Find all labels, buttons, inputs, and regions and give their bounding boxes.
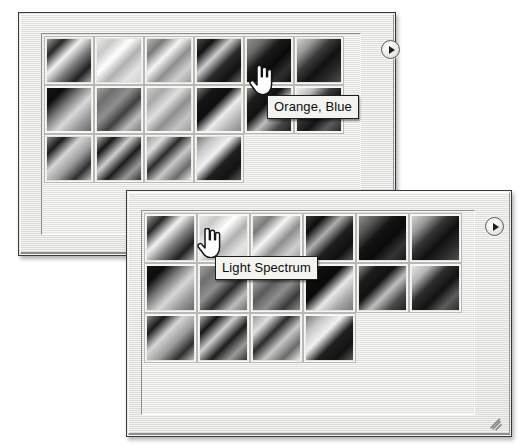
- gradient-swatch-grid: [144, 213, 462, 363]
- gradient-swatch[interactable]: [194, 85, 244, 134]
- gradient-swatch[interactable]: [144, 213, 197, 263]
- gradient-swatch[interactable]: [197, 313, 250, 363]
- gradient-swatch[interactable]: [94, 134, 144, 183]
- gradient-swatch-fill: [359, 216, 406, 260]
- gradient-swatch-fill: [147, 88, 191, 131]
- gradient-picker-menu-button[interactable]: [381, 40, 400, 59]
- gradient-swatch[interactable]: [294, 36, 344, 85]
- gradient-swatch[interactable]: [144, 134, 194, 183]
- pointing-hand-cursor: [196, 228, 222, 258]
- gradient-swatch[interactable]: [194, 134, 244, 183]
- gradient-swatch-fill: [47, 137, 91, 180]
- gradient-swatch-fill: [306, 316, 353, 360]
- pointing-hand-cursor: [248, 65, 274, 95]
- gradient-swatch[interactable]: [144, 36, 194, 85]
- gradient-swatch-fill: [147, 216, 194, 260]
- gradient-swatch[interactable]: [303, 313, 356, 363]
- gradient-swatch[interactable]: [94, 36, 144, 85]
- right-triangle-in-circle-icon: [389, 46, 395, 54]
- gradient-swatch[interactable]: [44, 134, 94, 183]
- gradient-swatch-fill: [97, 39, 141, 82]
- gradient-swatch[interactable]: [250, 313, 303, 363]
- swatch-tooltip: Orange, Blue: [267, 95, 359, 119]
- gradient-swatch-fill: [359, 266, 406, 310]
- gradient-swatch-fill: [147, 137, 191, 180]
- gradient-swatch-fill: [297, 39, 341, 82]
- gradient-swatch[interactable]: [144, 313, 197, 363]
- gradient-swatch-fill: [253, 216, 300, 260]
- gradient-swatch-fill: [97, 88, 141, 131]
- gradient-picker-bottom: Light Spectrum: [126, 190, 512, 437]
- gradient-swatch[interactable]: [409, 213, 462, 263]
- gradient-swatch[interactable]: [44, 85, 94, 134]
- gradient-swatch[interactable]: [356, 263, 409, 313]
- swatch-tooltip: Light Spectrum: [215, 256, 318, 280]
- gradient-swatch-fill: [306, 216, 353, 260]
- gradient-swatch-fill: [147, 316, 194, 360]
- gradient-swatch-fill: [200, 316, 247, 360]
- gradient-swatch-fill: [197, 39, 241, 82]
- gradient-swatch-fill: [47, 39, 91, 82]
- gradient-swatch-fill: [412, 266, 459, 310]
- gradient-swatch-fill: [412, 216, 459, 260]
- resize-grip-icon[interactable]: [489, 413, 505, 429]
- gradient-picker-menu-button[interactable]: [485, 217, 504, 236]
- gradient-swatch[interactable]: [44, 36, 94, 85]
- gradient-swatch[interactable]: [356, 213, 409, 263]
- gradient-swatch[interactable]: [144, 85, 194, 134]
- gradient-swatch[interactable]: [409, 263, 462, 313]
- gradient-swatch-well[interactable]: [141, 210, 475, 415]
- gradient-swatch[interactable]: [94, 85, 144, 134]
- gradient-swatch-fill: [197, 88, 241, 131]
- gradient-swatch[interactable]: [194, 36, 244, 85]
- right-triangle-in-circle-icon: [493, 223, 499, 231]
- gradient-swatch-fill: [147, 39, 191, 82]
- gradient-swatch-fill: [47, 88, 91, 131]
- gradient-swatch-fill: [97, 137, 141, 180]
- gradient-swatch-fill: [253, 316, 300, 360]
- gradient-swatch-fill: [197, 137, 241, 180]
- gradient-swatch-fill: [147, 266, 194, 310]
- gradient-swatch[interactable]: [144, 263, 197, 313]
